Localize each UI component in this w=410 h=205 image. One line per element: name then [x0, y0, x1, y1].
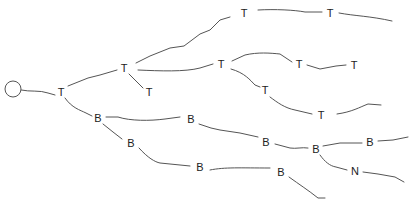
tree-edge [21, 90, 55, 95]
node-label: T [121, 62, 128, 74]
tree-edge [103, 124, 122, 139]
tree-edge [363, 172, 404, 182]
node-label: T [146, 86, 153, 98]
tree-edge [138, 64, 213, 71]
node-label: T [351, 59, 358, 71]
node-label: B [262, 136, 269, 148]
tree-edge [136, 17, 230, 63]
node-label: B [366, 136, 373, 148]
tree-diagram: TTTTTTTTTTBBBBBBBBN [0, 0, 410, 205]
tree-edge [289, 177, 325, 198]
node-label: T [218, 58, 225, 70]
tree-edge [232, 53, 292, 62]
node-label: B [312, 143, 319, 155]
tree-edge [199, 124, 258, 137]
tree-edge [231, 69, 260, 87]
node-label: T [262, 84, 269, 96]
node-label: T [296, 58, 303, 70]
node-label: B [94, 112, 101, 124]
node-label: B [127, 137, 134, 149]
node-label: N [351, 165, 359, 177]
tree-edge [337, 104, 381, 114]
tree-edge [139, 148, 190, 166]
tree-edge [210, 168, 270, 170]
node-label: T [58, 86, 65, 98]
tree-edge [270, 97, 312, 114]
node-label: T [241, 7, 248, 19]
node-label: B [196, 161, 203, 173]
tree-edge [129, 74, 143, 88]
node-label: T [327, 7, 334, 19]
tree-edge [258, 10, 322, 12]
node-label: B [187, 113, 194, 125]
tree-edge [378, 137, 408, 141]
tree-edge [323, 143, 362, 146]
tree-edge [339, 13, 392, 21]
edges-layer [21, 10, 408, 198]
tree-edge [307, 65, 346, 69]
tree-edge [320, 155, 347, 170]
tree-edge [106, 117, 180, 120]
node-label: T [318, 109, 325, 121]
node-label: B [277, 166, 284, 178]
tree-edge [275, 144, 308, 148]
tree-edge [65, 98, 92, 116]
root-node [5, 81, 21, 97]
tree-edge [68, 70, 117, 86]
nodes-layer: TTTTTTTTTTBBBBBBBBN [58, 7, 374, 178]
